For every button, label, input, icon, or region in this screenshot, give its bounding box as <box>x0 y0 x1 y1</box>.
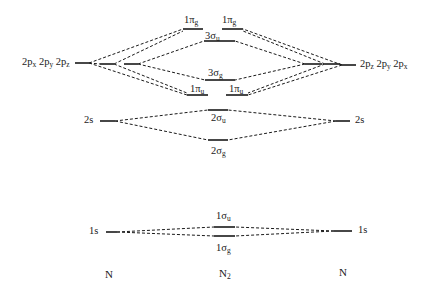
label-3sigma-u: 3σu <box>205 30 220 42</box>
label-1pi-u-b: 1πu <box>229 83 243 95</box>
label-1pi-u-a: 1πu <box>190 83 204 95</box>
label-1sigma-g: 1σg <box>216 242 231 254</box>
label-3sigma-g: 3σg <box>208 67 223 79</box>
column-label-left-atom: N <box>105 268 113 280</box>
column-label-molecule: N2 <box>219 267 231 279</box>
label-2sigma-g: 2σg <box>211 145 226 157</box>
label-left-2p: 2px 2py 2pz <box>22 56 70 68</box>
label-left-2s: 2s <box>84 114 93 126</box>
column-label-right-atom: N <box>339 266 347 278</box>
correlation-lines <box>89 29 342 236</box>
label-right-2p: 2pz 2py 2px <box>360 58 408 70</box>
label-left-1s: 1s <box>89 225 98 237</box>
label-1sigma-u: 1σu <box>216 210 231 222</box>
label-1pi-g-b: 1πg <box>222 14 236 26</box>
label-2sigma-u: 2σu <box>211 112 226 124</box>
label-right-1s: 1s <box>358 224 367 236</box>
label-1pi-g-a: 1πg <box>184 14 198 26</box>
label-right-2s: 2s <box>355 114 364 126</box>
